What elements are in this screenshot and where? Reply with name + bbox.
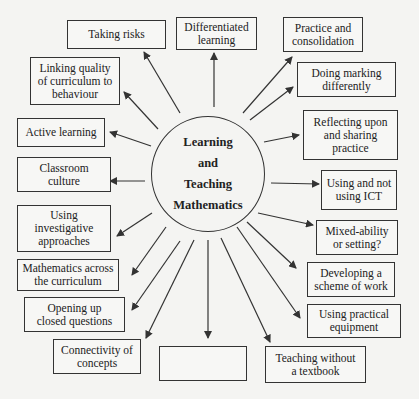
topic-box-connectivity: Connectivity ofconcepts: [53, 339, 141, 374]
topic-box-text: a textbook: [276, 365, 356, 378]
topic-box-text: and sharing: [314, 129, 388, 142]
arrow-to-mixed-ability: [258, 213, 313, 225]
center-line-3: Teaching: [184, 174, 232, 195]
topic-box-text: concepts: [61, 357, 133, 370]
arrow-to-practice-consolidation: [243, 57, 292, 113]
center-line-4: Mathematics: [173, 195, 242, 216]
topic-box-differentiated-learning: Differentiatedlearning: [176, 17, 257, 50]
arrow-to-teaching-without-textbook: [221, 238, 270, 342]
topic-box-text: Teaching without: [276, 352, 356, 365]
topic-box-practical-equipment: Using practicalequipment: [307, 304, 401, 338]
topic-box-text: Mathematics across: [22, 262, 113, 275]
topic-box-text: equipment: [319, 321, 389, 334]
topic-box-maths-across: Mathematics acrossthe curriculum: [17, 259, 119, 291]
topic-box-text: Connectivity of: [61, 344, 133, 357]
topic-box-text: practice: [314, 142, 388, 155]
topic-box-text: culture: [39, 175, 88, 188]
arrow-to-linking-quality: [124, 92, 158, 129]
topic-box-investigative: Usinginvestigativeapproaches: [17, 205, 111, 252]
topic-box-text: consolidation: [292, 35, 354, 48]
topic-box-text: Classroom: [39, 162, 88, 175]
topic-box-reflecting: Reflecting uponand sharingpractice: [303, 110, 398, 160]
topic-box-text: Taking risks: [88, 28, 144, 41]
topic-box-text: Practice and: [292, 22, 354, 35]
arrow-to-investigative: [117, 213, 152, 236]
topic-box-text: Using practical: [319, 308, 389, 321]
arrow-to-taking-risks: [144, 52, 180, 113]
topic-box-text: scheme of work: [314, 280, 387, 293]
topic-box-text: Developing a: [314, 267, 387, 280]
topic-box-text: Mixed-ability: [325, 225, 388, 238]
topic-box-teaching-without-textbook: Teaching withouta textbook: [265, 346, 366, 383]
topic-box-text: behaviour: [38, 88, 113, 101]
topic-box-text: approaches: [35, 235, 94, 248]
central-topic-circle: Learning and Teaching Mathematics: [151, 116, 265, 232]
arrow-to-practical-equipment: [237, 227, 300, 318]
topic-box-text: of curriculum to: [38, 75, 113, 88]
topic-box-active-learning: Active learning: [17, 118, 105, 147]
topic-box-linking-quality: Linking qualityof curriculum tobehaviour: [30, 57, 120, 105]
topic-box-doing-marking: Doing markingdifferently: [297, 62, 396, 97]
topic-box-text: or setting?: [325, 238, 388, 251]
topic-box-text: learning: [184, 34, 248, 47]
center-line-1: Learning: [183, 132, 232, 153]
topic-box-text: Opening up: [37, 302, 113, 315]
topic-box-mixed-ability: Mixed-abilityor setting?: [316, 220, 398, 255]
arrow-to-opening-up: [132, 241, 180, 310]
topic-box-text: closed questions: [37, 315, 113, 328]
topic-box-text: Doing marking: [312, 67, 382, 80]
arrow-to-reflecting: [264, 135, 299, 142]
topic-box-text: using ICT: [327, 190, 392, 203]
arrow-to-scheme-of-work: [247, 222, 296, 268]
topic-box-practice-consolidation: Practice andconsolidation: [283, 17, 363, 52]
topic-box-text: Linking quality: [38, 62, 113, 75]
topic-box-text: Active learning: [25, 126, 96, 139]
arrow-to-active-learning: [110, 132, 151, 146]
topic-box-text: differently: [312, 80, 382, 93]
topic-box-text: investigative: [35, 222, 94, 235]
topic-box-opening-up: Opening upclosed questions: [24, 297, 125, 332]
topic-box-empty-box: [159, 346, 247, 381]
topic-box-text: Using: [35, 209, 94, 222]
topic-box-text: Differentiated: [184, 21, 248, 34]
topic-box-taking-risks: Taking risks: [67, 20, 166, 49]
topic-box-scheme-of-work: Developing ascheme of work: [307, 262, 395, 297]
topic-box-text: the curriculum: [22, 275, 113, 288]
center-line-2: and: [198, 153, 218, 174]
topic-box-text: Using and not: [327, 177, 392, 190]
topic-box-using-ict: Using and notusing ICT: [321, 170, 397, 210]
arrow-to-doing-marking: [250, 87, 293, 120]
topic-box-text: Reflecting upon: [314, 116, 388, 129]
arrow-to-using-ict: [271, 183, 319, 184]
topic-box-classroom-culture: Classroomculture: [17, 157, 111, 192]
